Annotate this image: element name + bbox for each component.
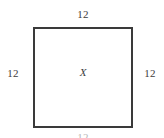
side-label-top: 12 bbox=[33, 9, 133, 20]
side-label-left: 12 bbox=[0, 68, 26, 79]
side-label-bottom: 12 bbox=[33, 132, 133, 138]
interior-variable-label: X bbox=[33, 67, 133, 78]
diagram-canvas: 12 12 12 12 X bbox=[0, 0, 164, 138]
side-label-right: 12 bbox=[137, 68, 163, 79]
